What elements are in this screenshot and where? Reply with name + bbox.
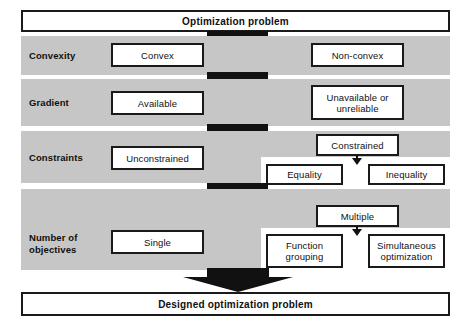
option-box-unconstrained: Unconstrained — [111, 146, 204, 170]
option-box-single: Single — [111, 230, 204, 254]
sub-option-box-function-grouping: Function grouping — [266, 234, 343, 268]
title-box: Optimization problem — [21, 10, 450, 32]
sub-option-box-inequality: Inequality — [368, 164, 445, 185]
sub-option-box-equality: Equality — [266, 164, 343, 185]
big-down-arrow-icon — [183, 268, 293, 292]
connector-bar-gradient-to-constraints — [207, 124, 268, 131]
option-box-constrained: Constrained — [316, 134, 399, 156]
option-box-non-convex: Non-convex — [311, 43, 404, 67]
row-label-number-of-objectives: Number of objectives — [29, 232, 101, 255]
connector-bar-convexity-to-gradient — [207, 72, 268, 79]
flowchart-diagram: Optimization problem Convexity Convex No… — [0, 0, 470, 328]
option-box-unavailable-or-unreliable: Unavailable or unreliable — [311, 85, 404, 120]
sub-option-box-simultaneous-optimization: Simultaneous optimization — [368, 234, 445, 268]
option-box-convex: Convex — [111, 43, 204, 67]
arrow-down-icon-constrained — [352, 158, 362, 165]
result-box: Designed optimization problem — [21, 292, 450, 316]
result-box-label: Designed optimization problem — [158, 299, 313, 310]
option-box-multiple: Multiple — [316, 205, 399, 227]
option-box-available: Available — [111, 91, 204, 115]
arrow-down-icon-multiple — [352, 229, 362, 236]
title-box-label: Optimization problem — [182, 16, 289, 27]
